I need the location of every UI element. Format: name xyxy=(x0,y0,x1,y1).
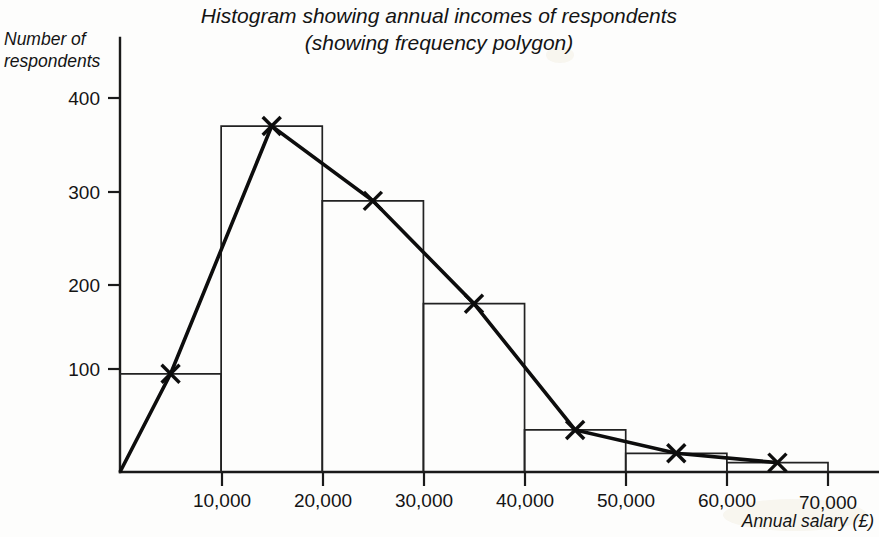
chart-canvas: Histogram showing annual incomes of resp… xyxy=(0,0,879,537)
histogram-bars xyxy=(120,126,828,472)
y-tick-label-300: 300 xyxy=(68,182,100,203)
histogram-bar xyxy=(423,304,524,472)
y-tick-label-200: 200 xyxy=(68,275,100,296)
y-axis-label-line2: respondents xyxy=(4,51,101,71)
y-axis-label-line1: Number of xyxy=(4,29,88,49)
y-tick-label-400: 400 xyxy=(68,88,100,109)
y-tick-label-100: 100 xyxy=(68,359,100,380)
x-axis-label: Annual salary (£) xyxy=(741,511,874,531)
chart-subtitle: (showing frequency polygon) xyxy=(305,31,574,54)
histogram-figure: Histogram showing annual incomes of resp… xyxy=(0,0,879,537)
histogram-bar xyxy=(120,374,221,472)
histogram-bar xyxy=(221,126,322,472)
x-tick-label-60000: 60,000 xyxy=(698,490,756,511)
x-tick-label-20000: 20,000 xyxy=(294,490,352,511)
y-tick-marks xyxy=(108,98,120,369)
frequency-polygon xyxy=(120,117,786,472)
histogram-bar xyxy=(525,430,626,472)
frequency-polygon-line xyxy=(120,126,777,472)
x-tick-label-70000: 70,000 xyxy=(799,492,857,513)
x-tick-label-40000: 40,000 xyxy=(496,490,554,511)
histogram-bar xyxy=(322,201,423,472)
x-tick-label-50000: 50,000 xyxy=(597,490,655,511)
x-tick-marks xyxy=(222,472,828,486)
chart-title: Histogram showing annual incomes of resp… xyxy=(201,4,678,27)
paper-texture xyxy=(546,47,867,531)
x-tick-label-10000: 10,000 xyxy=(193,490,251,511)
x-tick-label-30000: 30,000 xyxy=(395,490,453,511)
